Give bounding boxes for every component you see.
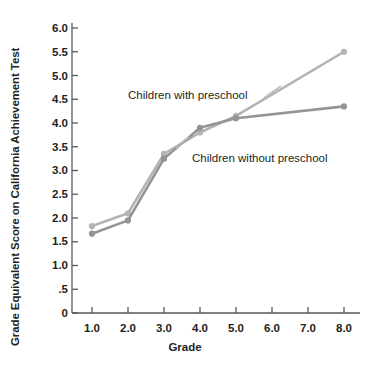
data-point	[341, 103, 347, 109]
series-with-preschool	[89, 49, 347, 230]
annotation-leader-line-2	[176, 137, 189, 148]
data-point	[341, 49, 347, 55]
data-point	[161, 156, 167, 162]
data-point	[233, 115, 239, 121]
series-annotation-without-preschool: Children without preschool	[192, 152, 328, 164]
series-annotation-with-preschool: Children with preschool	[128, 89, 248, 101]
series-without-preschool	[89, 103, 347, 237]
x-tick-marks	[92, 307, 344, 313]
series-layer	[89, 49, 347, 237]
y-tick-marks	[72, 28, 78, 313]
data-point	[89, 223, 95, 229]
data-point	[125, 217, 131, 223]
data-point	[197, 125, 203, 131]
plot-area	[0, 0, 370, 371]
data-point	[89, 231, 95, 237]
line-chart-figure: Grade Equivalent Score on California Ach…	[0, 0, 370, 371]
series-line	[92, 52, 344, 226]
